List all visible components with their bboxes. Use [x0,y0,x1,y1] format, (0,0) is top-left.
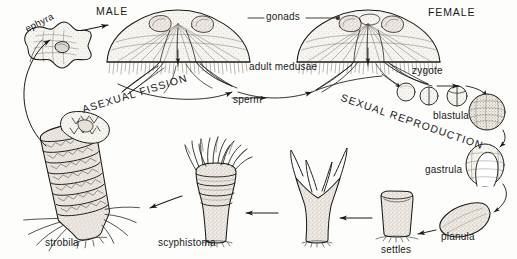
label-adult-medusae: adult medusae [249,62,317,72]
gastrula-illustration [466,144,504,186]
label-zygote: zygote [412,66,443,76]
female-medusa-illustration [297,10,440,92]
young-polyp-illustration [291,148,347,247]
zygote-illustration [397,83,415,101]
label-blastula: blastula [433,111,469,121]
two-cell-stage-illustration [420,87,438,105]
arrow-planula-to-settles [418,230,436,234]
blastula-illustration [469,94,505,130]
four-cell-blastula-illustration [447,86,467,106]
label-strobila: strobila [45,238,79,248]
arrow-blastula-to-gastrula [500,130,505,147]
arrow-gastrula-to-planula [494,184,506,212]
label-scyphistoma: scyphistoma [158,238,216,248]
settles-illustration [376,191,418,242]
label-male: MALE [96,6,128,17]
label-planula: planula [441,232,475,242]
label-settles: settles [381,245,411,255]
label-gonads: gonads [266,12,300,22]
arrow-to-zygote [382,74,401,88]
label-female: FEMALE [428,7,475,18]
arrow-scyphistoma-to-strobila [150,196,182,208]
label-gastrula: gastrula [425,165,462,175]
label-sperm: sperm [233,95,262,105]
life-cycle-diagram: ephyra MALE gonads FEMALE adult medusae … [0,0,517,259]
scyphistoma-illustration [185,137,252,247]
